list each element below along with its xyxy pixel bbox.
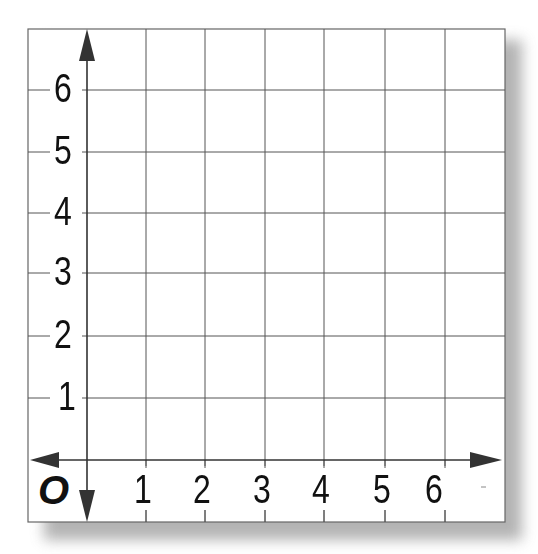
x-label-6: 6 [425,466,443,512]
coordinate-grid-figure: 6 5 4 3 2 1 1 2 3 4 5 6 O [0,0,538,554]
x-label-3: 3 [253,466,271,512]
x-label-4: 4 [312,466,330,512]
x-label-5: 5 [373,466,391,512]
y-label-5: 5 [54,126,72,174]
y-label-3: 3 [54,247,72,295]
y-label-6: 6 [54,64,72,112]
x-label-1: 1 [134,466,152,512]
y-label-1: 1 [58,372,76,420]
y-label-4: 4 [54,187,72,235]
grid-paper [28,29,505,522]
y-label-2: 2 [54,310,72,358]
origin-label: O [38,468,69,512]
x-label-2: 2 [193,466,211,512]
